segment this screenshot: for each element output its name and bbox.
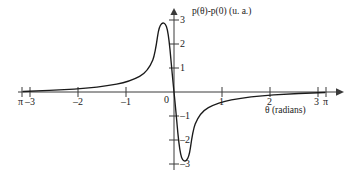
x-axis-title: θ (radians): [265, 106, 306, 116]
y-tick-label-neg3: –3: [180, 159, 190, 169]
x-tick-label-pi-pos: π: [323, 97, 328, 107]
y-tick-label-neg2: –2: [180, 135, 190, 145]
x-tick-label-0: 0: [164, 95, 169, 105]
y-tick-label-2: 2: [180, 39, 185, 49]
y-axis-title: p(θ)-p(0) (u. a.): [192, 7, 251, 17]
x-tick-label-1: 1: [219, 97, 224, 107]
figure-container: π –3 –2 –1 0 1 2 3 π 3 2 1 –1 –2 –3 p(θ)…: [0, 0, 348, 176]
x-tick-label-pi-neg: π: [18, 97, 23, 107]
y-tick-label-3: 3: [180, 15, 185, 25]
x-tick-label-neg1: –1: [121, 97, 131, 107]
y-axis-arrowhead: [170, 8, 177, 15]
y-tick-label-1: 1: [180, 63, 185, 73]
x-tick-label-neg3: –3: [25, 97, 35, 107]
x-axis-arrowhead: [336, 88, 344, 96]
y-tick-label-neg1: –1: [180, 111, 190, 121]
plot-canvas: [0, 0, 348, 176]
x-tick-label-3: 3: [314, 97, 319, 107]
x-tick-label-neg2: –2: [73, 97, 83, 107]
